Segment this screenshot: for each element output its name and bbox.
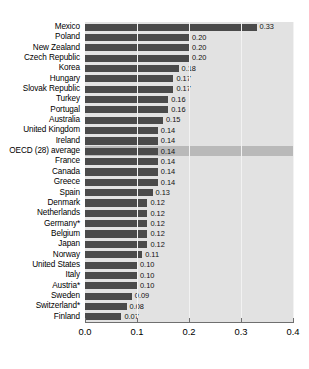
category-label: United Kingdom	[0, 125, 80, 135]
category-label: Germany*	[0, 219, 80, 229]
bar-value-label: 0.12	[150, 219, 164, 229]
bar-value-label: 0.17	[176, 84, 190, 94]
category-label: Denmark	[0, 198, 80, 208]
bar	[85, 96, 168, 103]
category-label: United States	[0, 260, 80, 270]
bar	[85, 303, 127, 310]
chart-row: Austria*0.10	[0, 281, 309, 291]
category-label: Switzerland*	[0, 301, 80, 311]
category-label: Austria*	[0, 281, 80, 291]
category-label: France	[0, 156, 80, 166]
bar-value-label: 0.14	[161, 126, 175, 136]
bar-value-label: 0.12	[150, 229, 164, 239]
category-label: New Zealand	[0, 43, 80, 53]
bar-value-label: 0.12	[150, 240, 164, 250]
bar	[85, 313, 121, 320]
bar	[85, 179, 158, 186]
chart-row: Spain0.13	[0, 188, 309, 198]
chart-row: Belgium0.12	[0, 229, 309, 239]
bar-value-label: 0.10	[140, 271, 154, 281]
category-label: Korea	[0, 63, 80, 73]
chart-row: Turkey0.16	[0, 94, 309, 104]
x-axis-tick-label: 0.3	[221, 326, 261, 337]
bar-value-label: 0.16	[171, 95, 185, 105]
bar	[85, 75, 173, 82]
x-axis-tick	[137, 318, 138, 323]
bar-value-label: 0.09	[135, 291, 149, 301]
bar-value-label: 0.14	[161, 178, 175, 188]
bar	[85, 282, 137, 289]
category-label: Japan	[0, 239, 80, 249]
chart-row: Mexico0.33	[0, 22, 309, 32]
chart-row: Poland0.20	[0, 32, 309, 42]
chart-row: New Zealand0.20	[0, 43, 309, 53]
x-axis-tick	[189, 318, 190, 323]
chart-row: Ireland0.14	[0, 136, 309, 146]
x-axis-tick-label: 0.0	[65, 326, 105, 337]
chart-row: Germany*0.12	[0, 219, 309, 229]
category-label: Greece	[0, 177, 80, 187]
bar-value-label: 0.10	[140, 281, 154, 291]
x-axis-tick-label: 0.4	[273, 326, 309, 337]
category-label: Canada	[0, 167, 80, 177]
bar-value-label: 0.16	[171, 105, 185, 115]
x-axis-tick	[85, 318, 86, 323]
category-label: Netherlands	[0, 208, 80, 218]
bar	[85, 55, 189, 62]
bar-value-label: 0.14	[161, 147, 175, 157]
category-label: Norway	[0, 250, 80, 260]
chart-row: Netherlands0.12	[0, 208, 309, 218]
bar	[85, 241, 147, 248]
bar	[85, 272, 137, 279]
bar	[85, 189, 153, 196]
bar-value-label: 0.15	[166, 115, 180, 125]
category-label: Slovak Republic	[0, 84, 80, 94]
bar-value-label: 0.33	[260, 22, 274, 32]
bar	[85, 158, 158, 165]
bar	[85, 127, 158, 134]
category-label: Belgium	[0, 229, 80, 239]
bar	[85, 106, 168, 113]
bar-value-label: 0.11	[145, 250, 159, 260]
category-label: Turkey	[0, 94, 80, 104]
chart-rows: Mexico0.33Poland0.20New Zealand0.20Czech…	[0, 22, 309, 322]
bar	[85, 210, 147, 217]
bar	[85, 65, 179, 72]
bar-value-label: 0.14	[161, 157, 175, 167]
category-label: Hungary	[0, 74, 80, 84]
bar-value-label: 0.08	[130, 302, 144, 312]
bar-value-label: 0.14	[161, 136, 175, 146]
bar-value-label: 0.18	[182, 64, 196, 74]
bar	[85, 117, 163, 124]
bar-value-label: 0.10	[140, 260, 154, 270]
chart-row: Hungary0.17	[0, 74, 309, 84]
chart-row: Portugal0.16	[0, 105, 309, 115]
bar	[85, 137, 158, 144]
chart-row: Denmark0.12	[0, 198, 309, 208]
chart-row: Norway0.11	[0, 250, 309, 260]
chart-row: Korea0.18	[0, 63, 309, 73]
chart-row: Canada0.14	[0, 167, 309, 177]
bar	[85, 168, 158, 175]
x-axis-tick	[241, 318, 242, 323]
chart-row: Japan0.12	[0, 239, 309, 249]
chart-row: Finland0.07	[0, 312, 309, 322]
x-axis-tick-label: 0.2	[169, 326, 209, 337]
category-label: Australia	[0, 115, 80, 125]
chart-row: United States0.10	[0, 260, 309, 270]
bar	[85, 44, 189, 51]
chart-row: Czech Republic0.20	[0, 53, 309, 63]
chart-row: Italy0.10	[0, 270, 309, 280]
category-label: Italy	[0, 270, 80, 280]
category-label: Sweden	[0, 291, 80, 301]
chart-row: Greece0.14	[0, 177, 309, 187]
bar-chart: Mexico0.33Poland0.20New Zealand0.20Czech…	[0, 0, 309, 369]
category-label: OECD (28) average	[0, 146, 80, 156]
bar-value-label: 0.13	[156, 188, 170, 198]
bar-value-label: 0.12	[150, 198, 164, 208]
category-label: Czech Republic	[0, 53, 80, 63]
x-axis-tick-label: 0.1	[117, 326, 157, 337]
bar	[85, 199, 147, 206]
bar	[85, 86, 173, 93]
bar	[85, 293, 132, 300]
